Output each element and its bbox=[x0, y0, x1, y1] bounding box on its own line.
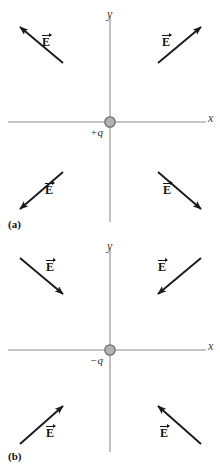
panel-b-graphic bbox=[0, 236, 220, 473]
point-charge-negative bbox=[105, 345, 115, 355]
panel-a-graphic bbox=[0, 0, 220, 237]
vector-arrow-icon bbox=[46, 258, 54, 262]
electric-field-figure: y x +q E E E E (a) bbox=[0, 0, 220, 473]
axis-label-y-b: y bbox=[107, 240, 112, 252]
field-label-upper-left-a: E bbox=[42, 33, 50, 48]
charge-label-negative: −q bbox=[90, 355, 103, 366]
vector-arrow-icon bbox=[163, 181, 171, 185]
axis-label-y-a: y bbox=[107, 8, 112, 20]
axis-label-x-b: x bbox=[208, 340, 213, 352]
point-charge-positive bbox=[105, 117, 115, 127]
field-vector-lower-left bbox=[20, 406, 63, 444]
field-label-upper-right-a: E bbox=[162, 33, 170, 48]
panel-tag-a: (a) bbox=[8, 219, 21, 230]
field-label-lower-right-b: E bbox=[160, 424, 168, 439]
field-label-lower-left-b: E bbox=[46, 424, 54, 439]
axis-label-x-a: x bbox=[208, 112, 213, 124]
field-label-lower-right-a: E bbox=[163, 181, 171, 196]
vector-arrow-icon bbox=[45, 181, 53, 185]
charge-label-positive: +q bbox=[90, 127, 103, 138]
vector-arrow-icon bbox=[42, 33, 50, 37]
field-vector-upper-left bbox=[20, 258, 63, 294]
field-label-upper-left-b: E bbox=[46, 258, 54, 273]
panel-a-positive-charge: y x +q E E E E (a) bbox=[0, 0, 220, 236]
field-label-upper-right-b: E bbox=[158, 258, 166, 273]
panel-b-negative-charge: y x −q E E E E (b) bbox=[0, 236, 220, 473]
panel-tag-b: (b) bbox=[8, 451, 21, 462]
field-vector-lower-left bbox=[20, 172, 63, 209]
vector-arrow-icon bbox=[160, 424, 168, 428]
vector-arrow-icon bbox=[162, 33, 170, 37]
vector-arrow-icon bbox=[158, 258, 166, 262]
vector-arrow-icon bbox=[46, 424, 54, 428]
field-label-lower-left-a: E bbox=[45, 181, 53, 196]
